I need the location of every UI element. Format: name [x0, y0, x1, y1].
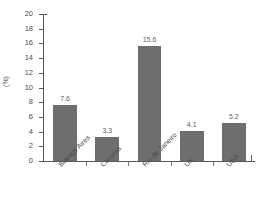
bar-group: 3.3: [86, 14, 128, 161]
y-axis-tick-label: 20: [25, 10, 33, 18]
bar-value-label: 4.1: [171, 121, 213, 128]
y-axis-tick: 10: [39, 88, 43, 89]
bar-group: 4.1: [171, 14, 213, 161]
bar-value-label: 3.3: [86, 127, 128, 134]
y-axis-tick-label: 14: [25, 54, 33, 62]
y-axis-tick: 18: [39, 29, 43, 30]
plot-area: 02468101214161820 7.63.315.64.15.2: [43, 14, 255, 162]
y-axis-tick: 12: [39, 73, 43, 74]
y-axis-tick-label: 0: [29, 157, 33, 165]
y-axis-tick-label: 4: [29, 128, 33, 136]
y-axis-tick: 8: [39, 102, 43, 103]
y-axis-tick: 16: [39, 43, 43, 44]
y-axis-tick-label: 8: [29, 98, 33, 106]
bars-layer: 7.63.315.64.15.2: [44, 14, 255, 161]
y-axis-tick-label: 12: [25, 69, 33, 77]
y-axis-tick-label: 2: [29, 143, 33, 151]
bar: [180, 131, 204, 161]
x-axis-category-labels: Buenos AiresCaracasRio de JaneiroUKUSA: [43, 163, 275, 212]
y-axis-tick-label: 6: [29, 113, 33, 121]
bar: [138, 46, 162, 161]
bar-value-label: 5.2: [213, 113, 255, 120]
y-axis-tick: 2: [39, 146, 43, 147]
y-axis-tick: 20: [39, 14, 43, 15]
y-axis-tick: 0: [39, 161, 43, 162]
y-axis-tick-label: 18: [25, 25, 33, 33]
y-axis-tick-label: 10: [25, 84, 33, 92]
bar-value-label: 15.6: [128, 36, 170, 43]
bar-chart: (%) 02468101214161820 7.63.315.64.15.2 B…: [0, 0, 275, 212]
y-axis-tick: 14: [39, 58, 43, 59]
y-axis-tick: 6: [39, 117, 43, 118]
y-axis-title: (%): [2, 62, 9, 102]
y-axis-tick-label: 16: [25, 40, 33, 48]
bar-value-label: 7.6: [44, 95, 86, 102]
bar-group: 5.2: [213, 14, 255, 161]
y-axis-tick: 4: [39, 132, 43, 133]
